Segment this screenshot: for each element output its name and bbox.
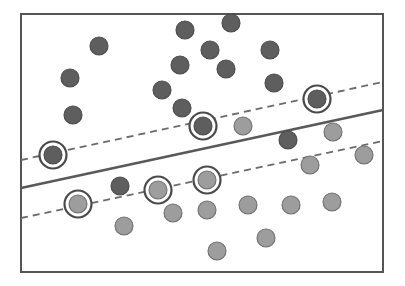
data-point [355,146,373,164]
dark-class-marker [265,74,283,92]
light-class-marker [234,117,252,135]
data-point [323,193,341,211]
data-point [282,196,300,214]
support-vector-point [304,86,331,113]
light-class-marker [323,193,341,211]
light-class-marker [257,229,275,247]
data-point [153,81,171,99]
data-point [301,156,319,174]
support-vector-point [190,113,217,140]
data-point [115,217,133,235]
support-vector-point [40,142,67,169]
data-point [208,242,226,260]
data-point [201,41,219,59]
data-point [265,74,283,92]
light-class-marker [115,217,133,235]
support-vector-point [145,177,172,204]
dark-class-marker [308,90,326,108]
light-class-marker [208,242,226,260]
dark-class-marker [153,81,171,99]
light-class-marker [301,156,319,174]
data-point [90,37,108,55]
data-point [234,117,252,135]
data-point [257,229,275,247]
dark-class-marker [64,106,82,124]
data-point [176,21,194,39]
light-class-marker [324,123,342,141]
data-point [111,177,129,195]
dark-class-marker [176,21,194,39]
dark-class-marker [44,146,62,164]
light-class-marker [164,204,182,222]
dark-class-marker [171,56,189,74]
data-point [198,201,216,219]
svm-plot-canvas [0,0,405,286]
dark-class-marker [222,14,240,32]
dark-class-marker [90,37,108,55]
svm-figure [0,0,405,286]
data-point [324,123,342,141]
light-class-marker [149,181,167,199]
data-point [64,106,82,124]
dark-class-marker [279,131,297,149]
data-point [217,60,235,78]
dark-class-marker [173,99,191,117]
dark-class-marker [61,69,79,87]
light-class-marker [198,171,216,189]
light-class-marker [355,146,373,164]
data-point [61,69,79,87]
support-vector-point [65,191,92,218]
data-point [222,14,240,32]
dark-class-marker [261,41,279,59]
data-point [171,56,189,74]
dark-class-marker [111,177,129,195]
dark-class-marker [201,41,219,59]
light-class-marker [69,195,87,213]
data-point [173,99,191,117]
light-class-marker [239,196,257,214]
light-class-marker [282,196,300,214]
support-vector-point [194,167,221,194]
dark-class-marker [194,117,212,135]
data-point [239,196,257,214]
data-point [279,131,297,149]
data-point [261,41,279,59]
light-class-marker [198,201,216,219]
dark-class-marker [217,60,235,78]
data-point [164,204,182,222]
